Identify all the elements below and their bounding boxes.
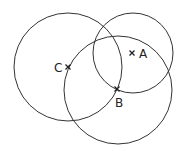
circle-top-right bbox=[93, 13, 173, 93]
circles-diagram: C A B bbox=[0, 0, 181, 151]
point-a-cross-icon bbox=[130, 51, 135, 56]
label-a: A bbox=[139, 47, 148, 61]
label-b: B bbox=[115, 96, 123, 110]
label-c: C bbox=[54, 61, 62, 75]
